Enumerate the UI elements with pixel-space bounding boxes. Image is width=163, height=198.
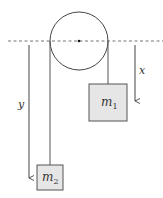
pulley-axle: [78, 40, 81, 43]
y-label: y: [17, 98, 25, 111]
x-label: x: [139, 64, 146, 77]
atwood-diagram: m1 m2 x y: [0, 0, 163, 198]
